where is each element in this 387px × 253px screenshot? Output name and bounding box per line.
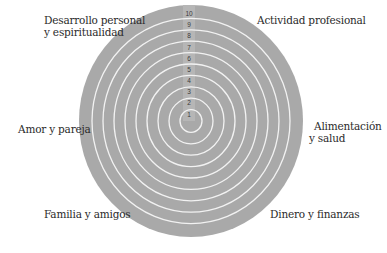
scale-6: 6 [187,55,191,62]
area-label-familia: Familia y amigos [44,208,131,220]
area-label-line: Actividad profesional [257,14,366,26]
area-label-desarrollo: Desarrollo personal y espiritualidad [44,14,145,38]
area-label-alimentacion: Alimentación y salud [309,120,382,144]
scale-7: 7 [187,44,191,51]
area-label-line: y espiritualidad [44,26,145,38]
scale-10: 10 [185,10,193,17]
area-label-actividad: Actividad profesional [257,14,366,26]
scale-9: 9 [187,21,191,28]
area-label-line: y salud [309,132,382,144]
scale-2: 2 [187,99,191,106]
area-label-line: Amor y pareja [18,123,91,135]
area-label-line: Alimentación [309,120,382,132]
scale-5: 5 [187,66,191,73]
scale-8: 8 [187,32,191,39]
scale-3: 3 [187,88,191,95]
area-label-line: Familia y amigos [44,208,131,220]
scale-4: 4 [187,77,191,84]
area-label-amor: Amor y pareja [18,123,91,135]
area-label-line: Dinero y finanzas [270,208,360,220]
area-label-dinero: Dinero y finanzas [270,208,360,220]
area-label-line: Desarrollo personal [44,14,145,26]
scale-1: 1 [187,111,191,118]
